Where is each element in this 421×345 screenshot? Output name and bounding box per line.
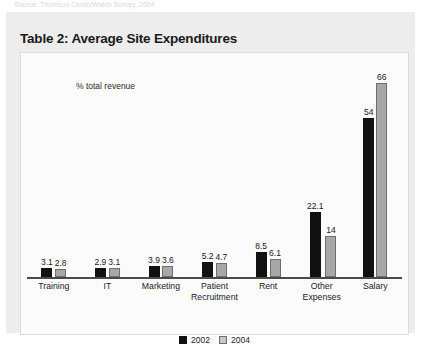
bar-2004 bbox=[376, 83, 387, 277]
legend-swatch-2004 bbox=[219, 336, 227, 344]
bar-2004 bbox=[216, 263, 227, 277]
bar-group: 22.114 bbox=[295, 53, 349, 277]
x-axis-label: IT bbox=[81, 281, 135, 327]
x-axis-label-line: IT bbox=[81, 281, 135, 292]
bar-group: 3.12.8 bbox=[27, 53, 81, 277]
bar-value-label: 2.9 bbox=[95, 257, 107, 267]
x-axis-label-line: Expenses bbox=[295, 292, 349, 303]
bar-item: 2.9 bbox=[95, 53, 107, 277]
bar-2002 bbox=[310, 212, 321, 277]
bar-item: 3.6 bbox=[162, 53, 174, 277]
bar-value-label: 54 bbox=[364, 107, 373, 117]
bar-value-label: 4.7 bbox=[216, 252, 228, 262]
bar-2004 bbox=[109, 268, 120, 277]
bar-item: 14 bbox=[325, 53, 336, 277]
legend-item: 2002 bbox=[179, 335, 210, 345]
x-axis-label-line: Other bbox=[295, 281, 349, 292]
bar-2002 bbox=[363, 118, 374, 277]
bar-item: 54 bbox=[363, 53, 374, 277]
bar-value-label: 3.1 bbox=[41, 257, 53, 267]
x-axis-label-line: Rent bbox=[241, 281, 295, 292]
x-axis-label: Training bbox=[27, 281, 81, 327]
x-axis-label: Marketing bbox=[134, 281, 188, 327]
bar-value-label: 8.5 bbox=[255, 241, 267, 251]
bar-group: 3.93.6 bbox=[134, 53, 188, 277]
bar-2004 bbox=[162, 266, 173, 277]
bar-value-label: 2.8 bbox=[55, 258, 67, 268]
bar-groups: 3.12.82.93.13.93.65.24.78.56.122.1145466 bbox=[27, 53, 402, 277]
bar-value-label: 5.2 bbox=[202, 251, 214, 261]
bar-value-label: 3.6 bbox=[162, 255, 174, 265]
bar-item: 6.1 bbox=[269, 53, 281, 277]
x-axis-label-line: Recruitment bbox=[188, 292, 242, 303]
bar-value-label: 3.9 bbox=[148, 255, 160, 265]
chart-frame: % total revenue 3.12.82.93.13.93.65.24.7… bbox=[20, 52, 409, 335]
bar-group: 2.93.1 bbox=[81, 53, 135, 277]
bar-group: 5.24.7 bbox=[188, 53, 242, 277]
bar-2004 bbox=[325, 236, 336, 277]
bar-item: 5.2 bbox=[202, 53, 214, 277]
legend-label: 2004 bbox=[231, 335, 250, 345]
bar-item: 2.8 bbox=[55, 53, 67, 277]
x-axis-label-line: Patient bbox=[188, 281, 242, 292]
legend-swatch-2002 bbox=[179, 336, 187, 344]
page-title: Table 2: Average Site Expenditures bbox=[20, 31, 237, 46]
bar-2002 bbox=[41, 268, 52, 277]
plot-area: 3.12.82.93.13.93.65.24.78.56.122.1145466… bbox=[21, 53, 408, 334]
bar-item: 3.1 bbox=[108, 53, 120, 277]
bar-value-label: 6.1 bbox=[269, 248, 281, 258]
bar-group: 5466 bbox=[348, 53, 402, 277]
bar-group: 8.56.1 bbox=[241, 53, 295, 277]
x-axis-label-line: Marketing bbox=[134, 281, 188, 292]
bar-2004 bbox=[55, 269, 66, 277]
bar-item: 66 bbox=[376, 53, 387, 277]
bar-2004 bbox=[270, 259, 281, 277]
bar-2002 bbox=[95, 268, 106, 277]
x-axis-label: Rent bbox=[241, 281, 295, 327]
bar-2002 bbox=[202, 262, 213, 277]
bar-2002 bbox=[149, 266, 160, 277]
bar-value-label: 14 bbox=[326, 225, 335, 235]
x-axis-label: PatientRecruitment bbox=[188, 281, 242, 327]
x-axis-label-line: Training bbox=[27, 281, 81, 292]
x-axis-label: OtherExpenses bbox=[295, 281, 349, 327]
bar-2002 bbox=[256, 252, 267, 277]
chart-legend: 20022004 bbox=[21, 335, 408, 345]
bar-item: 22.1 bbox=[307, 53, 324, 277]
x-axis-label: Salary bbox=[348, 281, 402, 327]
bar-value-label: 3.1 bbox=[108, 257, 120, 267]
table-panel: Table 2: Average Site Expenditures % tot… bbox=[6, 12, 415, 333]
bar-value-label: 22.1 bbox=[307, 201, 324, 211]
source-note: Source: Thomson CenterWatch Survey, 2004 bbox=[14, 0, 314, 9]
bar-item: 8.5 bbox=[255, 53, 267, 277]
legend-label: 2002 bbox=[191, 335, 210, 345]
bar-value-label: 66 bbox=[377, 72, 386, 82]
x-axis-label-line: Salary bbox=[348, 281, 402, 292]
x-axis-labels: TrainingITMarketingPatientRecruitmentRen… bbox=[27, 281, 402, 327]
bar-item: 3.1 bbox=[41, 53, 53, 277]
bar-item: 4.7 bbox=[216, 53, 228, 277]
x-axis-line bbox=[27, 277, 402, 279]
legend-item: 2004 bbox=[219, 335, 250, 345]
bar-item: 3.9 bbox=[148, 53, 160, 277]
